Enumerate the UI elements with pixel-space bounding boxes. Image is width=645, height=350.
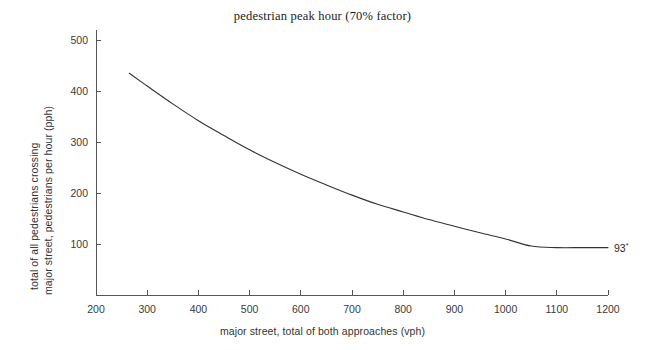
x-tick-label: 400: [190, 303, 208, 315]
y-tick-label: 400: [70, 85, 88, 97]
chart-figure: pedestrian peak hour (70% factor) total …: [0, 0, 645, 350]
x-tick-label: 600: [292, 303, 310, 315]
curve-end-annotation: 93*: [614, 241, 628, 254]
y-tick-label: 500: [70, 34, 88, 46]
x-tick-label: 900: [446, 303, 464, 315]
x-tick-label: 800: [394, 303, 412, 315]
plot-area: [0, 0, 645, 350]
x-tick-label: 500: [241, 303, 259, 315]
y-tick-label: 200: [70, 187, 88, 199]
data-series-line: [129, 73, 608, 247]
x-tick-label: 200: [87, 303, 105, 315]
y-axis-label-line2: major street, pedestrians per hour (pph): [42, 106, 54, 295]
y-tick-label: 300: [70, 136, 88, 148]
x-axis-ticks: [96, 290, 608, 295]
x-tick-label: 1100: [546, 303, 569, 315]
axis-spines: [96, 30, 608, 295]
annotation-footnote-marker: *: [626, 241, 629, 248]
y-axis-label-line1: total of all pedestrians crossing: [28, 143, 40, 290]
annotation-value: 93: [614, 242, 626, 254]
x-tick-label: 300: [138, 303, 156, 315]
y-axis-ticks: [96, 40, 101, 244]
x-tick-label: 1200: [596, 303, 619, 315]
x-axis-label: major street, total of both approaches (…: [0, 325, 645, 337]
x-tick-label: 700: [343, 303, 361, 315]
y-tick-label: 100: [70, 238, 88, 250]
x-tick-label: 1000: [494, 303, 517, 315]
chart-title: pedestrian peak hour (70% factor): [0, 9, 645, 24]
